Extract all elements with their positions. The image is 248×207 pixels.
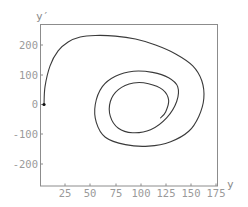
x-tick-labels: 25 50 75 100 125 150 175 (59, 187, 226, 199)
y-tick-label: 100 (19, 69, 38, 81)
plot-frame (41, 25, 218, 187)
x-tick-label: 25 (59, 187, 72, 199)
x-tick-label: 50 (84, 187, 97, 199)
trajectory-curve (44, 35, 204, 146)
phase-plot: 200 100 0 -100 -200 25 50 75 100 125 150… (0, 0, 248, 207)
x-tick-label: 75 (110, 187, 123, 199)
x-tick-label: 100 (132, 187, 151, 199)
x-tick-label: 175 (207, 187, 226, 199)
x-tick-label: 150 (182, 187, 201, 199)
x-tick-label: 125 (157, 187, 176, 199)
start-point-marker (42, 103, 45, 106)
y-tick-label: -100 (13, 128, 38, 140)
y-tick-label: -200 (13, 158, 38, 170)
x-axis-label: y (227, 178, 234, 191)
y-tick-labels: 200 100 0 -100 -200 (13, 39, 38, 170)
y-tick-label: 0 (32, 98, 38, 110)
y-tick-label: 200 (19, 39, 38, 51)
y-axis-label: y′ (36, 10, 49, 23)
